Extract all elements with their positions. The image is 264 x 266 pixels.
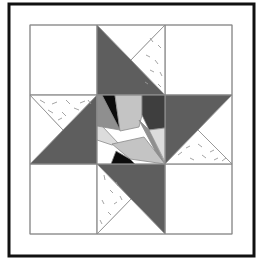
quilt-pieces	[30, 25, 232, 234]
corner-bottom-right	[165, 164, 232, 234]
center-light-top	[115, 95, 142, 131]
corner-top-left	[30, 25, 97, 95]
corner-bottom-left	[30, 164, 97, 234]
quilt-block-diagram	[0, 0, 264, 266]
corner-top-right	[165, 25, 232, 95]
